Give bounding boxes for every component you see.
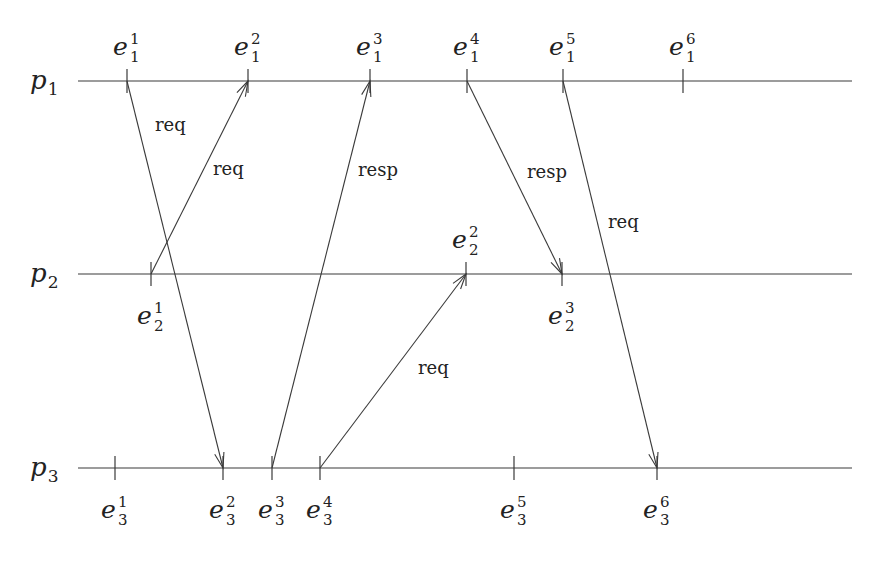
event-label-base: e — [113, 32, 128, 61]
event-label-e3_3: e33 — [258, 493, 285, 529]
process-label-index: 2 — [48, 272, 59, 292]
message-label: req — [418, 357, 449, 378]
space-time-diagram: p1p2p3 reqreqrespreqrespreq e11e21e31e41… — [0, 0, 880, 562]
event-label-e3_2: e23 — [209, 493, 236, 529]
message-label: resp — [527, 161, 567, 182]
event-label-base: e — [453, 32, 468, 61]
message-label: req — [155, 114, 186, 135]
arrowhead-icon — [551, 258, 562, 274]
message-m4: req — [320, 274, 466, 468]
event-label-base: e — [549, 32, 564, 61]
event-label-superscript: 1 — [118, 493, 128, 511]
event-label-e3_4: e43 — [306, 493, 333, 529]
message-label: req — [213, 158, 244, 179]
event-label-subscript: 3 — [323, 511, 333, 529]
event-label-base: e — [137, 301, 152, 330]
event-label-base: e — [452, 225, 467, 254]
event-label-e1_6: e61 — [669, 30, 696, 66]
process-label-base: p — [30, 258, 47, 288]
event-label-subscript: 1 — [566, 48, 576, 66]
event-label-base: e — [234, 32, 249, 61]
event-label-superscript: 4 — [323, 493, 333, 511]
event-label-base: e — [548, 301, 563, 330]
event-label-superscript: 3 — [565, 299, 575, 317]
event-label-superscript: 3 — [275, 493, 285, 511]
event-label-base: e — [500, 495, 515, 524]
event-label-base: e — [258, 495, 273, 524]
event-label-e3_5: e53 — [500, 493, 527, 529]
event-label-e1_3: e31 — [356, 30, 383, 66]
event-label-superscript: 3 — [373, 30, 383, 48]
event-label-superscript: 6 — [660, 493, 670, 511]
event-label-e1_5: e51 — [549, 30, 576, 66]
event-label-subscript: 3 — [517, 511, 527, 529]
event-label-base: e — [356, 32, 371, 61]
event-label-subscript: 1 — [373, 48, 383, 66]
event-label-e1_1: e11 — [113, 30, 140, 66]
message-m5: resp — [467, 81, 567, 274]
process-label-base: p — [30, 65, 47, 95]
event-label-subscript: 1 — [686, 48, 696, 66]
event-label-e2_3: e32 — [548, 299, 575, 335]
process-label-base: p — [30, 452, 47, 482]
event-label-e1_4: e41 — [453, 30, 480, 66]
event-label-e2_1: e12 — [137, 299, 164, 335]
message-label: resp — [358, 159, 398, 180]
event-label-subscript: 1 — [130, 48, 140, 66]
event-label-subscript: 2 — [565, 317, 575, 335]
event-label-superscript: 2 — [251, 30, 261, 48]
message-m2: req — [151, 81, 248, 274]
event-label-superscript: 5 — [566, 30, 576, 48]
event-label-subscript: 1 — [470, 48, 480, 66]
process-label-p3: p3 — [30, 452, 58, 486]
event-label-subscript: 3 — [660, 511, 670, 529]
event-label-subscript: 3 — [226, 511, 236, 529]
event-label-superscript: 4 — [470, 30, 480, 48]
event-label-subscript: 2 — [154, 317, 164, 335]
event-label-subscript: 2 — [469, 241, 479, 259]
event-label-superscript: 2 — [469, 223, 479, 241]
event-label-e3_6: e63 — [643, 493, 670, 529]
process-label-p2: p2 — [30, 258, 58, 292]
event-label-base: e — [209, 495, 224, 524]
process-label-index: 3 — [48, 466, 59, 486]
message-label: req — [608, 211, 639, 232]
event-label-subscript: 1 — [251, 48, 261, 66]
process-label-index: 1 — [48, 79, 59, 99]
process-lines: p1p2p3 — [30, 65, 852, 486]
event-label-superscript: 1 — [154, 299, 164, 317]
event-label-superscript: 1 — [130, 30, 140, 48]
event-label-base: e — [643, 495, 658, 524]
event-label-base: e — [306, 495, 321, 524]
event-label-base: e — [669, 32, 684, 61]
event-label-e2_2: e22 — [452, 223, 479, 259]
events: e11e21e31e41e51e61e12e22e32e13e23e33e43e… — [101, 30, 696, 529]
process-label-p1: p1 — [30, 65, 58, 99]
event-label-subscript: 3 — [118, 511, 128, 529]
event-label-base: e — [101, 495, 116, 524]
arrowhead-icon — [237, 81, 248, 97]
event-label-e3_1: e13 — [101, 493, 128, 529]
event-label-subscript: 3 — [275, 511, 285, 529]
event-label-superscript: 5 — [517, 493, 527, 511]
event-label-e1_2: e21 — [234, 30, 261, 66]
event-label-superscript: 2 — [226, 493, 236, 511]
event-label-superscript: 6 — [686, 30, 696, 48]
